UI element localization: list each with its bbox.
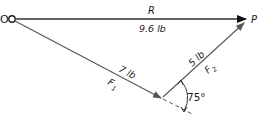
f1-magnitude-label: 7 lb [117,63,138,81]
end-label: P [251,14,258,25]
origin-label: O [0,13,9,26]
angle-label: 75° [187,91,206,103]
r-magnitude-label: 9.6 lb [139,23,166,34]
r-name-label: R [148,5,155,16]
labels-layer: O P R 9.6 lb 7 lb F 1 5 lb F 2 75° [0,0,260,123]
